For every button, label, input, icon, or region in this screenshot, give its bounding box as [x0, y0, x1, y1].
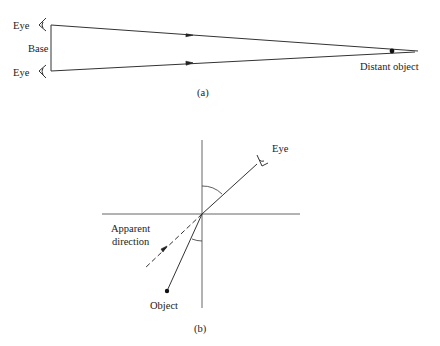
label-eye-b: Eye: [272, 143, 289, 154]
label-eye-bottom: Eye: [13, 67, 30, 78]
object-ray: [167, 214, 202, 291]
panel-b: Eye Apparent direction Object (b): [102, 140, 300, 335]
caption-a: (a): [197, 87, 209, 99]
apparent-direction-arrow: [161, 246, 167, 252]
eye-icon-top: [39, 18, 46, 31]
label-object: Object: [150, 300, 178, 311]
label-base: Base: [28, 43, 49, 54]
panel-a: Eye Eye Base Distant object (a): [13, 18, 419, 99]
distant-object-dot: [390, 49, 395, 54]
arrow-top: [186, 34, 193, 37]
eye-ray: [202, 164, 257, 214]
object-dot: [165, 289, 169, 293]
apparent-direction-ray: [144, 214, 202, 269]
eye-icon-bottom: [39, 65, 46, 78]
diagram-canvas: Eye Eye Base Distant object (a) Eye Appa…: [0, 0, 440, 346]
angle-arc-lower: [192, 239, 202, 241]
eye-icon-b: [257, 155, 268, 166]
angle-arc-upper: [202, 186, 222, 194]
arrow-bottom: [186, 61, 193, 65]
label-eye-top: Eye: [13, 20, 30, 31]
caption-b: (b): [194, 323, 207, 335]
ray-top: [51, 25, 418, 51]
figure: Eye Eye Base Distant object (a) Eye Appa…: [0, 0, 440, 346]
label-apparent: Apparent: [111, 223, 150, 234]
label-direction: direction: [112, 236, 150, 247]
label-distant-object: Distant object: [360, 61, 419, 72]
